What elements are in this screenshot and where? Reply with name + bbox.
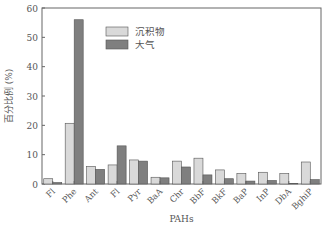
bar-atmosphere [117,146,126,184]
x-tick-label: Fl [44,186,57,199]
bar-sediment [65,123,74,184]
bar-atmosphere [160,178,169,184]
y-tick-label: 20 [27,121,39,131]
y-tick-label: 10 [27,150,39,160]
x-tick-label: Fl [108,186,121,199]
bar-chart: 0102030405060百分比例 (%)FlPheAntFlPyrBaAChr… [0,0,325,227]
bar-sediment [108,165,117,184]
bar-sediment [258,172,267,184]
plot-frame [42,8,321,184]
x-tick-label: BkF [210,186,229,205]
bar-atmosphere [139,161,148,184]
bar-sediment [280,173,289,184]
bar-sediment [130,160,139,184]
y-tick-label: 30 [27,92,39,102]
x-tick-label: Pyr [126,186,144,204]
y-tick-label: 50 [27,33,39,43]
x-tick-label: Ant [82,186,101,205]
legend-label: 大气 [135,39,155,50]
bar-atmosphere [182,167,191,184]
bar-sediment [301,162,310,184]
x-tick-label: BbF [188,186,208,206]
bar-atmosphere [203,175,212,184]
bar-atmosphere [74,20,83,184]
bar-sediment [151,177,160,184]
x-tick-label: Chr [167,186,186,205]
bar-atmosphere [53,183,62,184]
x-axis-label: PAHs [169,214,194,224]
bar-atmosphere [224,179,233,184]
bar-sediment [44,179,53,184]
bar-atmosphere [267,180,276,184]
x-tick-label: BghiP [290,186,315,211]
legend-label: 沉积物 [135,26,165,37]
y-tick-label: 0 [32,180,38,190]
y-tick-label: 40 [27,62,39,72]
x-tick-label: BaA [145,186,165,206]
bar-sediment [173,161,182,184]
x-tick-label: BaP [231,186,250,205]
x-tick-label: Phe [60,186,79,205]
bar-sediment [237,173,246,184]
y-tick-label: 60 [27,4,39,14]
bar-atmosphere [289,183,298,184]
bar-sediment [87,166,96,184]
bar-atmosphere [96,169,105,184]
y-axis-label: 百分比例 (%) [3,69,14,123]
bar-atmosphere [310,180,319,184]
bar-sediment [194,158,203,184]
legend-swatch [106,27,128,36]
bar-sediment [215,170,224,184]
bar-atmosphere [246,181,255,184]
x-tick-label: InP [254,186,272,204]
legend-swatch [106,40,128,49]
